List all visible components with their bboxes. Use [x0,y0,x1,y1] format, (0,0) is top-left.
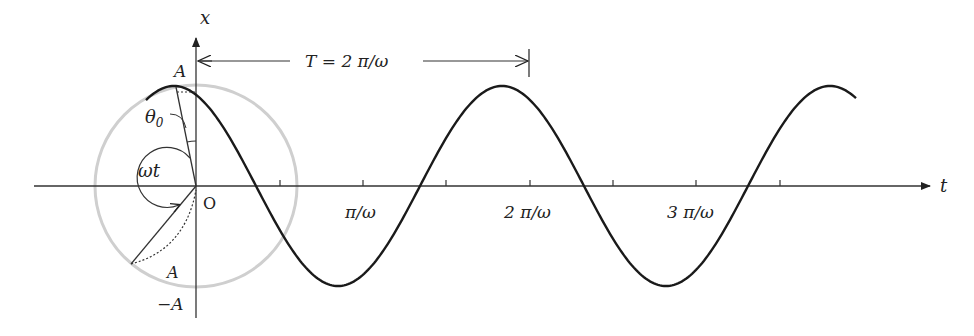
x-axis-label: x [200,7,210,28]
t-axis-label: t [940,175,948,196]
origin-label: O [203,194,216,213]
amplitude-top-label: A [172,61,186,81]
tick-label-3pi-over-omega: 3 π/ω [667,202,714,222]
rotated-phasor-line [131,186,196,264]
radius-label-A: A [165,263,179,282]
tick-label-2pi-over-omega: 2 π/ω [503,202,551,222]
tick-label-pi-over-omega: π/ω [344,202,376,222]
theta0-label: θ0 [145,106,164,130]
t-axis-ticks [280,180,780,186]
initial-phasor-line [176,87,196,186]
omega-t-label: ωt [138,160,161,181]
theta-symbol: θ [145,106,156,127]
theta-subscript: 0 [156,116,164,130]
amplitude-bottom-label: −A [157,294,184,314]
shm-phasor-diagram: x t O A −A A π/ω 2 π/ω 3 π/ω T = 2 π/ω θ… [0,0,974,336]
period-label: T = 2 π/ω [305,51,389,71]
theta0-arc [187,141,196,142]
